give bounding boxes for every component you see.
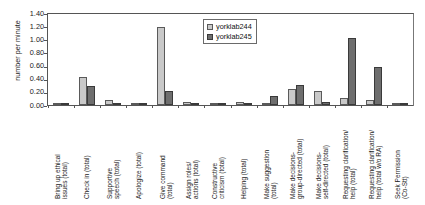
bar-group xyxy=(257,14,283,105)
bar xyxy=(296,85,304,105)
x-axis-category-label: Apologize (total) xyxy=(136,107,143,199)
x-axis-category-label: Supportive speech (total) xyxy=(106,107,120,199)
legend-color-swatch xyxy=(207,34,213,40)
y-axis-tick-mark xyxy=(44,93,47,94)
y-axis-tick-label: 0.60 xyxy=(18,62,44,69)
bar-group xyxy=(100,14,126,105)
bar-group xyxy=(361,14,387,105)
bar xyxy=(183,102,191,105)
x-axis-label-cell: Helping (total) xyxy=(231,107,257,203)
bar-chart: number per minute 1.401.201.000.800.600.… xyxy=(0,0,425,205)
bar xyxy=(340,98,348,105)
bar xyxy=(218,103,226,105)
y-axis-tick-label: 0.20 xyxy=(18,88,44,95)
bar xyxy=(236,102,244,105)
bar xyxy=(105,100,113,105)
bar-group xyxy=(178,14,204,105)
x-axis-label-cell: Supportive speech (total) xyxy=(100,107,126,203)
bar xyxy=(157,27,165,105)
x-axis-category-label: Make suggestion (total) xyxy=(263,107,277,199)
bar xyxy=(131,103,139,105)
bar-group xyxy=(48,14,74,105)
bar-group xyxy=(74,14,100,105)
bar xyxy=(322,102,330,105)
legend-color-swatch xyxy=(207,24,213,30)
y-axis-tick-mark xyxy=(44,67,47,68)
legend-label: yorklab245 xyxy=(216,33,252,41)
bar xyxy=(270,96,278,105)
legend-item: yorklab245 xyxy=(207,32,252,41)
bar xyxy=(79,77,87,105)
bar-group xyxy=(283,14,309,105)
x-axis-label-cell: Give command (total) xyxy=(153,107,179,203)
legend-label: yorklab244 xyxy=(216,23,252,31)
bar-group xyxy=(387,14,413,105)
y-axis-tick-mark xyxy=(44,53,47,54)
bar xyxy=(113,103,121,105)
bar xyxy=(288,89,296,105)
legend-item: yorklab244 xyxy=(207,22,252,31)
x-axis-category-label: Assign roles/ actions (total) xyxy=(185,107,199,199)
bar-group xyxy=(309,14,335,105)
y-axis-tick-label: 0.80 xyxy=(18,49,44,56)
x-axis-label-cell: Make decisions- group-directed (total) xyxy=(283,107,309,203)
x-axis-label-cell: Check in (total) xyxy=(74,107,100,203)
y-axis-tick-mark xyxy=(44,14,47,15)
x-axis-category-label: Requesting clarification/ help (total w/… xyxy=(368,107,382,199)
bar-group xyxy=(335,14,361,105)
x-axis-category-label: Check in (total) xyxy=(84,107,91,199)
x-axis-label-cell: Assign roles/ actions (total) xyxy=(179,107,205,203)
bar-group xyxy=(152,14,178,105)
x-axis-category-label: Bring up ethical issues (total) xyxy=(54,107,68,199)
bar xyxy=(400,103,408,105)
x-axis-label-cell: Requesting clarification/ help (total) xyxy=(336,107,362,203)
y-axis-tick-mark xyxy=(44,80,47,81)
bar xyxy=(392,103,400,105)
bar-group xyxy=(126,14,152,105)
y-axis-tick-mark xyxy=(44,106,47,107)
x-axis-label-cell: Apologize (total) xyxy=(126,107,152,203)
bar xyxy=(165,91,173,105)
bar xyxy=(366,100,374,105)
x-axis-label-cell: Seek Permission (Co-Stt) xyxy=(388,107,414,203)
x-axis-category-label: Seek Permission (Co-Stt) xyxy=(394,107,408,199)
x-axis-category-labels: Bring up ethical issues (total)Check in … xyxy=(48,107,414,203)
bar xyxy=(53,103,61,105)
bar xyxy=(139,103,147,105)
bar xyxy=(348,38,356,105)
x-axis-label-cell: Requesting clarification/ help (total w/… xyxy=(362,107,388,203)
legend: yorklab244yorklab245 xyxy=(203,19,257,44)
bar xyxy=(244,103,252,105)
y-axis-tick-label: 0.40 xyxy=(18,75,44,82)
bar xyxy=(87,86,95,105)
bar xyxy=(262,103,270,105)
x-axis-category-label: Requesting clarification/ help (total) xyxy=(341,107,355,199)
bar xyxy=(210,103,218,105)
bar xyxy=(314,91,322,105)
x-axis-category-label: Make decisions- self-directed (total) xyxy=(315,107,329,199)
y-axis-tick-label: 1.00 xyxy=(18,36,44,43)
x-axis-label-cell: Bring up ethical issues (total) xyxy=(48,107,74,203)
y-axis-tick-label: 0.00 xyxy=(18,102,44,109)
x-axis-category-label: Constructive criticism (total) xyxy=(211,107,225,199)
y-axis-tick-label: 1.40 xyxy=(18,10,44,17)
x-axis-label-cell: Make suggestion (total) xyxy=(257,107,283,203)
x-axis-category-label: Make decisions- group-directed (total) xyxy=(289,107,303,199)
y-axis-tick-mark xyxy=(44,40,47,41)
y-axis-tick-mark xyxy=(44,27,47,28)
y-axis-tick-labels: 1.401.201.000.800.600.400.200.00 xyxy=(18,13,44,105)
bar xyxy=(191,103,199,105)
y-axis-tick-label: 1.20 xyxy=(18,23,44,30)
x-axis-label-cell: Make decisions- self-directed (total) xyxy=(309,107,335,203)
x-axis-category-label: Give command (total) xyxy=(158,107,172,199)
x-axis-label-cell: Constructive criticism (total) xyxy=(205,107,231,203)
x-axis-category-label: Helping (total) xyxy=(240,107,247,199)
bar xyxy=(374,67,382,105)
bar xyxy=(61,103,69,105)
